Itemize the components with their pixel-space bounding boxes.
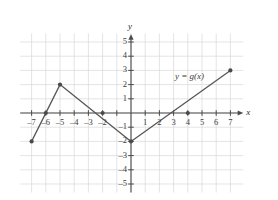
y-tick-label: –1 — [107, 121, 127, 131]
y-tick-label: –4 — [107, 164, 127, 174]
y-tick-label: 3 — [107, 64, 127, 74]
y-tick-label: –2 — [107, 135, 127, 145]
y-tick-label: –3 — [107, 150, 127, 160]
coordinate-plane — [0, 0, 278, 200]
y-tick-label: –5 — [107, 178, 127, 188]
y-tick-label: 2 — [107, 79, 127, 89]
axes — [20, 34, 243, 192]
y-axis-label: y — [128, 21, 132, 31]
graph-figure: –7–6–5–4–3–21234567–5–4–3–2–112345 x y y… — [0, 0, 278, 200]
x-tick-label: 7 — [220, 117, 240, 127]
x-axis-label: x — [246, 107, 250, 117]
y-tick-label: 5 — [107, 36, 127, 46]
y-tick-label: 1 — [107, 93, 127, 103]
curve-equation-label: y = g(x) — [175, 71, 204, 81]
y-tick-label: 4 — [107, 50, 127, 60]
